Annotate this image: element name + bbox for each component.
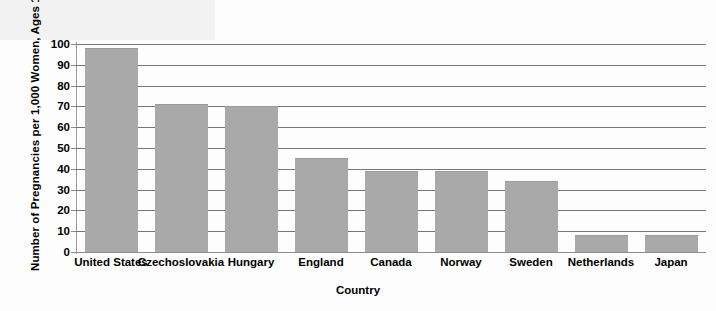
- y-axis-tick-mark: [71, 169, 76, 170]
- bar[interactable]: [645, 235, 698, 252]
- gridline: [76, 44, 706, 45]
- bar[interactable]: [505, 181, 558, 252]
- x-axis-tick-labels: United StatesCzechoslovakiaHungaryEnglan…: [76, 256, 706, 276]
- y-axis-tick-label: 100: [36, 38, 70, 50]
- gridline: [76, 86, 706, 87]
- y-axis-tick-label: 70: [36, 100, 70, 112]
- y-axis-tick-mark: [71, 44, 76, 45]
- bar[interactable]: [155, 104, 208, 252]
- x-axis-tick-label: Hungary: [228, 256, 275, 268]
- x-axis-tick-label: Norway: [440, 256, 482, 268]
- gridline: [76, 65, 706, 66]
- y-axis-tick-mark: [71, 252, 76, 253]
- x-axis-tick-label: United States: [74, 256, 148, 268]
- y-axis-tick-label: 90: [36, 59, 70, 71]
- y-axis-tick-mark: [71, 106, 76, 107]
- x-axis-tick-label: Czechoslovakia: [138, 256, 224, 268]
- y-axis-tick-mark: [71, 210, 76, 211]
- x-axis-tick-label: England: [298, 256, 343, 268]
- x-axis-tick-label: Netherlands: [568, 256, 634, 268]
- y-axis-tick-label: 30: [36, 184, 70, 196]
- y-axis-tick-label: 60: [36, 121, 70, 133]
- y-axis-tick-label: 0: [36, 246, 70, 258]
- y-axis-tick-mark: [71, 86, 76, 87]
- y-axis-tick-mark: [71, 127, 76, 128]
- x-axis-tick-label: Sweden: [509, 256, 552, 268]
- y-axis-tick-mark: [71, 190, 76, 191]
- y-axis-tick-mark: [71, 148, 76, 149]
- bar[interactable]: [435, 171, 488, 252]
- y-axis-tick-label: 40: [36, 163, 70, 175]
- gridline: [76, 252, 706, 253]
- bar-chart-figure: Number of Pregnancies per 1,000 Women, A…: [0, 0, 716, 311]
- bar[interactable]: [575, 235, 628, 252]
- y-axis-tick-labels: 0102030405060708090100: [30, 44, 70, 252]
- x-axis-tick-label: Canada: [370, 256, 412, 268]
- y-axis-tick-label: 80: [36, 80, 70, 92]
- y-axis-tick-label: 10: [36, 225, 70, 237]
- bar[interactable]: [365, 171, 418, 252]
- x-axis-tick-label: Japan: [654, 256, 687, 268]
- bar[interactable]: [225, 106, 278, 252]
- y-axis-tick-label: 20: [36, 204, 70, 216]
- plot-area: [76, 44, 706, 252]
- bar[interactable]: [85, 48, 138, 252]
- x-axis-title: Country: [0, 284, 716, 296]
- y-axis-tick-label: 50: [36, 142, 70, 154]
- y-axis-tick-mark: [71, 65, 76, 66]
- y-axis-tick-mark: [71, 231, 76, 232]
- bar[interactable]: [295, 158, 348, 252]
